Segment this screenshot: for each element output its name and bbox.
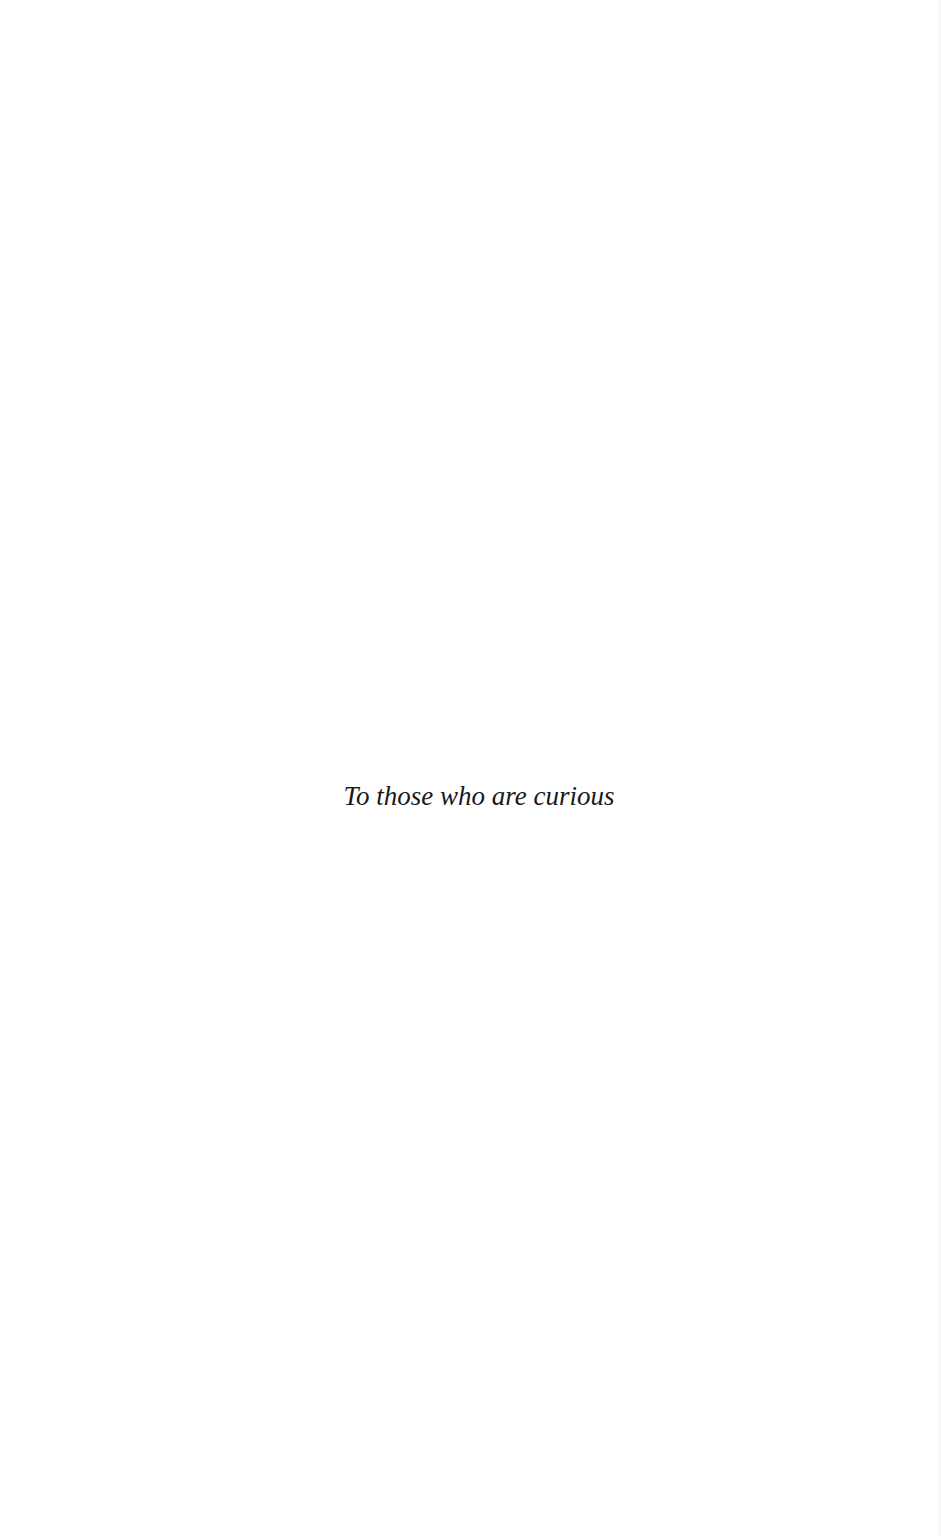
dedication-text: To those who are curious	[0, 779, 941, 813]
dedication-page: To those who are curious	[0, 0, 941, 1536]
page-edge-shadow	[935, 0, 941, 1536]
